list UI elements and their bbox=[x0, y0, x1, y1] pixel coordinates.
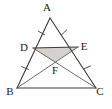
geometry-figure: A B C D E F bbox=[0, 0, 112, 109]
vertex-label-d: D bbox=[20, 41, 28, 53]
vertex-label-c: C bbox=[96, 85, 103, 97]
shaded-triangle-DEF bbox=[33, 47, 78, 62]
vertex-label-f: F bbox=[52, 64, 58, 76]
tick-mark-ae bbox=[61, 30, 66, 35]
vertex-label-b: B bbox=[6, 85, 13, 97]
tick-mark-ec bbox=[84, 66, 91, 69]
geometry-canvas: A B C D E F bbox=[0, 0, 112, 109]
vertex-label-e: E bbox=[81, 40, 88, 52]
vertex-label-a: A bbox=[43, 1, 51, 13]
